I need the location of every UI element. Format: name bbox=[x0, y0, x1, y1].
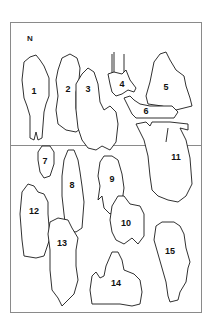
figure-5: 5 bbox=[146, 52, 192, 110]
figure-6-label: 6 bbox=[143, 106, 148, 116]
figure-8-label: 8 bbox=[69, 180, 74, 190]
figure-11-label: 11 bbox=[171, 152, 181, 162]
figure-13: 13 bbox=[48, 218, 78, 306]
figure-7-label: 7 bbox=[42, 156, 47, 166]
figure-7: 7 bbox=[38, 146, 54, 178]
figure-5-label: 5 bbox=[163, 82, 168, 92]
figure-15-label: 15 bbox=[165, 246, 175, 256]
figure-layout-diagram: N 1 2 3 4 5 6 11 7 bbox=[0, 0, 224, 332]
figure-10-label: 10 bbox=[121, 218, 131, 228]
figure-11: 11 bbox=[136, 122, 192, 202]
figure-13-label: 13 bbox=[57, 238, 67, 248]
figure-15: 15 bbox=[154, 222, 190, 302]
figure-14-label: 14 bbox=[111, 278, 121, 288]
figure-14: 14 bbox=[90, 252, 142, 306]
figure-2-label: 2 bbox=[65, 84, 70, 94]
north-marker: N bbox=[27, 34, 33, 43]
figure-1: 1 bbox=[22, 55, 49, 140]
figure-4-label: 4 bbox=[119, 79, 124, 89]
figure-12: 12 bbox=[20, 184, 50, 258]
figure-1-label: 1 bbox=[31, 86, 36, 96]
figure-9-label: 9 bbox=[109, 174, 114, 184]
figure-4: 4 bbox=[108, 52, 136, 96]
figure-3-label: 3 bbox=[85, 84, 90, 94]
figure-10: 10 bbox=[110, 196, 144, 244]
figure-12-label: 12 bbox=[29, 206, 39, 216]
